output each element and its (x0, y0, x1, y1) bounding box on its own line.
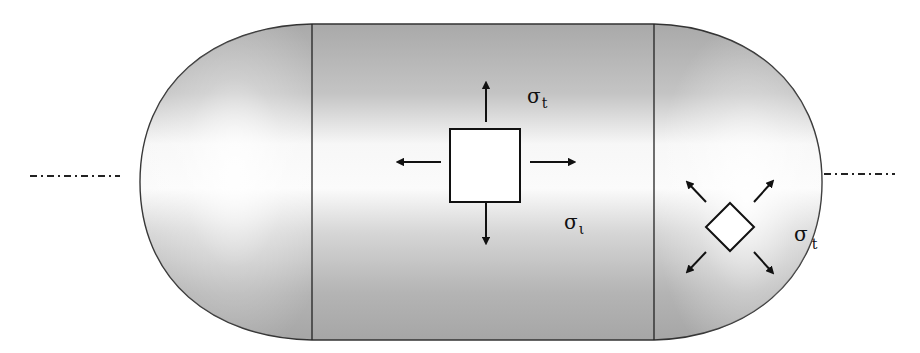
sigma-symbol: σ (564, 210, 578, 234)
sigma-symbol: σ (794, 222, 808, 246)
longitudinal-stress-label: σι (564, 212, 584, 236)
subscript: t (812, 236, 818, 252)
pressure-vessel-diagram (0, 0, 920, 353)
sigma-symbol: σ (527, 84, 541, 108)
hoop-stress-label: σt (527, 86, 547, 110)
head-stress-label: σt (794, 224, 817, 251)
subscript: ι (579, 221, 585, 237)
subscript: t (542, 95, 548, 111)
